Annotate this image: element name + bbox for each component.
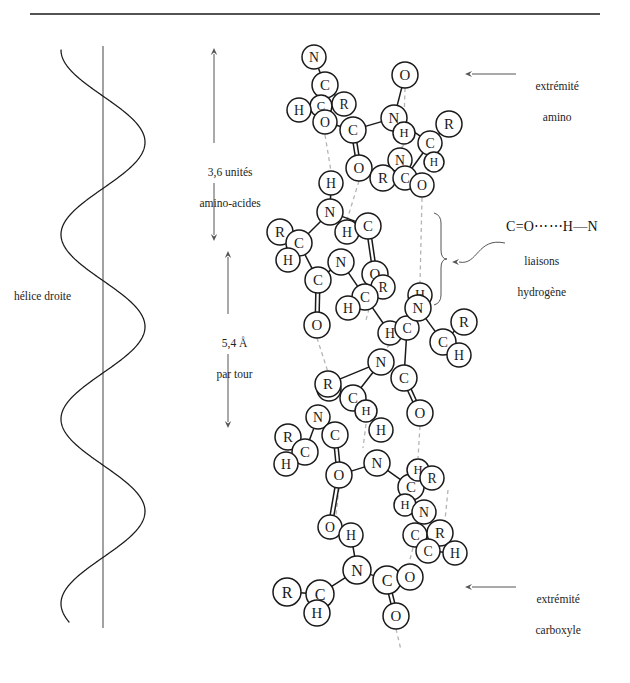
hydrogen-bond-5 (420, 198, 422, 283)
bond-45-double-b (338, 447, 340, 463)
atom-label-c5: C (294, 235, 304, 251)
residues-per-turn-label: 3,6 unités amino-acides (188, 149, 261, 227)
atom-label-r1: R (339, 97, 349, 112)
atom-label-h12: H (361, 404, 370, 418)
hydrogen-bond-formula: C=O⋯⋯H—N (506, 218, 598, 235)
atom-label-h10: H (454, 348, 464, 363)
atom-label-n11: N (351, 562, 363, 579)
measure-1-arrowhead-up (225, 251, 231, 258)
atom-label-h2: H (399, 126, 408, 140)
atom-label-h1: H (294, 103, 304, 118)
hydrogen-bond-10 (363, 424, 366, 448)
atom-label-o7: O (415, 405, 426, 421)
atom-label-h13: H (281, 457, 291, 472)
atom-label-r5: R (378, 280, 388, 295)
hydrogen-bond-caption-line2: hydrogène (518, 286, 567, 298)
atom-label-c8: C (360, 289, 370, 305)
atom-label-h19: H (312, 605, 323, 621)
atom-label-n3: N (395, 153, 405, 168)
atom-label-r11: R (282, 584, 293, 601)
atom-label-r10: R (435, 525, 445, 541)
carboxyl-terminus-line2: carboxyle (536, 624, 581, 636)
figure-canvas: NCCRHOOCNRHCHONRCHONRCHHCNCORCHOHHCNRCHN… (0, 0, 630, 683)
atom-label-o4: O (417, 178, 427, 193)
atom-label-h4: H (326, 176, 336, 191)
atom-label-c3: C (425, 136, 434, 151)
hydrogen-bond-15 (409, 548, 413, 563)
rise-per-turn-label: 5,4 Å par tour (205, 320, 253, 398)
bond-39 (339, 367, 370, 380)
bond-8 (397, 87, 402, 107)
rise-per-turn-line1: 5,4 Å (222, 337, 248, 349)
atom-label-n4: N (325, 204, 336, 220)
bond-61-double-a (388, 593, 391, 605)
carboxyl-terminus-label: extrémité carboxyle (524, 576, 581, 654)
atom-label-o3: O (354, 160, 365, 176)
atom-label-c2: C (348, 122, 358, 138)
residues-per-turn-line2: amino-acides (200, 197, 261, 209)
bond-6 (365, 121, 383, 126)
callout-1-arrowhead (465, 584, 472, 590)
atom-label-o11: O (391, 608, 402, 624)
atom-label-o10: O (405, 569, 416, 585)
bond-45-double-a (334, 447, 336, 463)
atom-label-n5: N (336, 254, 347, 270)
bond-61-double-b (392, 592, 395, 604)
bond-30 (372, 307, 384, 324)
atom-label-h18: H (450, 546, 460, 561)
atom-label-h7: H (343, 301, 353, 316)
measure-0-arrowhead-up (211, 48, 217, 55)
atom-label-c16: C (410, 528, 419, 543)
atom-label-h9: H (385, 326, 395, 341)
atom-label-c1: C (320, 77, 330, 93)
atom-label-c10: C (438, 334, 448, 350)
hydrogen-bond-caption-line1: liaisons (524, 255, 559, 267)
hydrogen-bond-leader-arrowhead (452, 259, 459, 265)
atom-label-r9: R (427, 471, 437, 486)
atom-label-n10: N (419, 505, 429, 520)
bond-38 (360, 371, 373, 388)
bond-7-double-a (353, 142, 355, 156)
hydrogen-bond-14 (396, 629, 401, 650)
atom-label-r6: R (459, 314, 469, 330)
atom-label-c11: C (399, 370, 409, 386)
atom-label-h17: H (346, 528, 356, 543)
bond-33 (425, 318, 436, 333)
atom-label-h14: H (376, 423, 386, 438)
helix-label: hélice droite (14, 289, 71, 305)
atom-label-r8: R (283, 429, 293, 445)
bond-24-double-b (372, 238, 376, 262)
atom-label-o1: O (320, 115, 330, 130)
atom-label-c4: C (400, 171, 409, 186)
atom-label-h16: H (400, 498, 409, 512)
bond-42 (309, 427, 314, 440)
helix-label-text: hélice droite (14, 290, 71, 302)
atom-label-n6: N (413, 300, 424, 316)
bond-13 (411, 152, 423, 169)
atom-label-c17: C (423, 544, 432, 559)
amino-terminus-line1: extrémité (536, 80, 579, 92)
atom-label-c13: C (330, 427, 340, 443)
atom-label-h6: H (342, 225, 352, 240)
hydrogen-bond-4 (347, 181, 359, 220)
atom-label-h5: H (283, 253, 293, 268)
hydrogen-bond-caption: liaisons hydrogène (506, 238, 566, 316)
bond-27 (348, 272, 358, 287)
atom-label-o6: O (312, 317, 323, 333)
hydrogen-bond-8 (418, 426, 420, 458)
atom-label-h3: H (430, 156, 438, 168)
atom-label-o2: O (400, 67, 411, 83)
bond-57 (331, 577, 346, 587)
hydrogen-bond-leader (459, 242, 505, 262)
atom-label-n7: N (376, 354, 387, 370)
bond-46 (350, 467, 365, 472)
atom-label-r2: R (444, 116, 454, 132)
hydrogen-bond-7 (317, 338, 328, 372)
atom-label-n8: N (313, 410, 323, 425)
atom-label-o9: O (325, 520, 335, 535)
bond-23 (304, 254, 312, 270)
atom-label-c6: C (363, 218, 373, 234)
atom-label-c7: C (313, 272, 323, 288)
atom-label-c15: C (406, 479, 416, 495)
helix-strand-6 (61, 604, 69, 622)
